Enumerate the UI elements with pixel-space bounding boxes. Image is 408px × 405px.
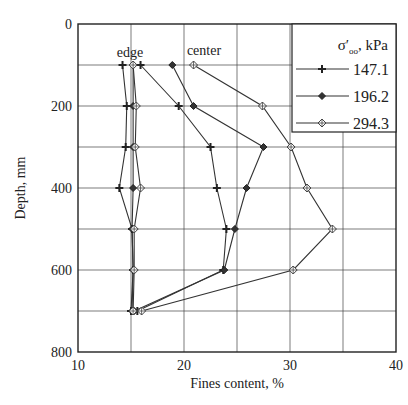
legend-label: 294.3 (353, 115, 389, 132)
y-tick-label: 600 (51, 263, 72, 278)
legend: σ′oo, kPa 147.1196.2294.3 (292, 24, 396, 132)
y-tick-label: 200 (51, 99, 72, 114)
x-axis-label: Fines content, % (190, 376, 284, 391)
y-axis-label: Depth, mm (13, 156, 28, 219)
diamond-marker-icon (169, 62, 176, 69)
x-tick-label: 20 (177, 358, 191, 373)
diamond-marker-icon (190, 103, 197, 110)
legend-label: 147.1 (353, 61, 389, 78)
y-tick-label: 800 (51, 345, 72, 360)
x-tick-label: 30 (283, 358, 297, 373)
y-tick-label: 400 (51, 181, 72, 196)
x-tick-label: 10 (71, 358, 85, 373)
annotation-center: center (187, 43, 222, 58)
diamond-marker-icon (243, 185, 250, 192)
fines-depth-chart: 10203040 0200400600800 Fines content, % … (0, 0, 408, 405)
annotation-edge: edge (117, 45, 143, 60)
y-tick-label: 0 (65, 17, 72, 32)
diamond-marker-icon (260, 144, 267, 151)
y-axis-ticks: 0200400600800 (51, 17, 72, 360)
legend-label: 196.2 (353, 88, 389, 105)
diamond-marker-icon (221, 267, 228, 274)
x-axis-ticks: 10203040 (71, 358, 403, 373)
x-tick-label: 40 (389, 358, 403, 373)
